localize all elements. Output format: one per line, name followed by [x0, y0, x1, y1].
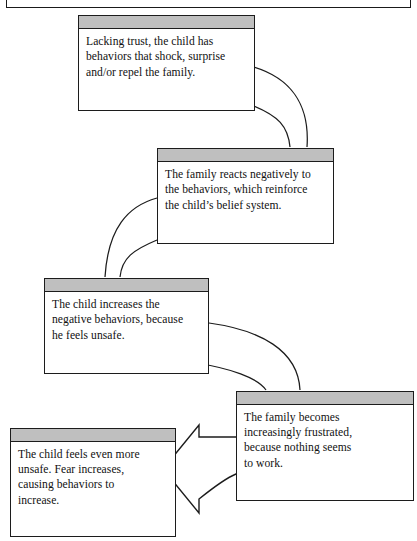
node-1-line-1: Lacking trust, the child has: [86, 34, 247, 49]
node-4-header-band: [237, 392, 413, 405]
node-2-body: The family reacts negatively to the beha…: [158, 162, 333, 217]
node-1-line-2: behaviors that shock, surprise: [86, 49, 247, 64]
node-1-body: Lacking trust, the child has behaviors t…: [79, 29, 254, 84]
node-3-line-2: negative behaviors, because: [52, 312, 201, 327]
node-2-line-3: the child’s belief system.: [165, 198, 326, 213]
node-2-header-band: [158, 149, 333, 162]
node-4-body: The family becomes increasingly frustrat…: [237, 405, 413, 475]
diagram-node-3[interactable]: The child increases the negative behavio…: [44, 278, 209, 374]
node-1-header-band: [79, 16, 254, 29]
node-5-line-4: increase.: [18, 493, 168, 508]
connector-node1-node2: [254, 67, 307, 147]
node-4-line-3: because nothing seems: [244, 440, 406, 455]
node-4-line-1: The family becomes: [244, 410, 406, 425]
diagram-node-2[interactable]: The family reacts negatively to the beha…: [157, 148, 334, 244]
node-2-line-2: the behaviors, which reinforce: [165, 182, 326, 197]
node-5-body: The child feels even more unsafe. Fear i…: [11, 442, 175, 512]
node-4-line-4: to work.: [244, 456, 406, 471]
node-3-line-3: he feels unsafe.: [52, 328, 201, 343]
node-5-line-1: The child feels even more: [18, 447, 168, 462]
node-5-line-2: unsafe. Fear increases,: [18, 462, 168, 477]
diagram-node-5[interactable]: The child feels even more unsafe. Fear i…: [10, 428, 176, 537]
node-3-line-1: The child increases the: [52, 297, 201, 312]
node-3-body: The child increases the negative behavio…: [45, 292, 208, 347]
node-1-line-3: and/or repel the family.: [86, 65, 247, 80]
node-2-line-1: The family reacts negatively to: [165, 167, 326, 182]
node-5-line-3: causing behaviors to: [18, 477, 168, 492]
diagram-canvas: Lacking trust, the child has behaviors t…: [0, 0, 417, 541]
connector-node3-node4: [195, 323, 300, 390]
node-3-header-band: [45, 279, 208, 292]
node-4-line-2: increasingly frustrated,: [244, 425, 406, 440]
diagram-node-4[interactable]: The family becomes increasingly frustrat…: [236, 391, 414, 501]
node-5-header-band: [11, 429, 175, 442]
connector-node2-node3: [105, 198, 157, 277]
diagram-node-1[interactable]: Lacking trust, the child has behaviors t…: [78, 15, 255, 111]
